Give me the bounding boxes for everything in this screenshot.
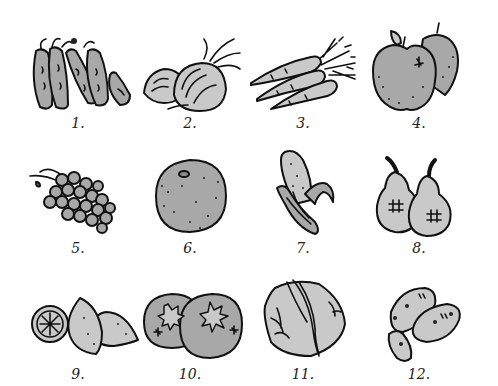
item-onions: 2.	[134, 17, 246, 137]
lemons-illustration	[22, 268, 134, 364]
item-number: 4.	[363, 115, 475, 131]
item-number: 9.	[22, 366, 134, 382]
item-number: 11.	[247, 366, 359, 382]
corn-illustration	[247, 142, 359, 238]
item-number: 6.	[134, 240, 246, 256]
item-orange: 6.	[134, 142, 246, 262]
onions-illustration	[134, 17, 246, 113]
item-number: 10.	[134, 366, 246, 382]
item-number: 12.	[363, 366, 475, 382]
item-carrots: 3.	[247, 17, 359, 137]
oranges-illustration	[134, 268, 246, 364]
grapes-illustration	[22, 142, 134, 238]
potatoes-illustration	[363, 268, 475, 364]
item-lemons: 9.	[22, 268, 134, 386]
carrots-illustration	[247, 17, 359, 113]
item-number: 5.	[22, 240, 134, 256]
pears-illustration	[363, 142, 475, 238]
orange-illustration	[134, 142, 246, 238]
item-pears: 8.	[363, 142, 475, 262]
item-apples: 4.	[363, 17, 475, 137]
item-cabbage: 11.	[247, 268, 359, 386]
item-number: 3.	[247, 115, 359, 131]
cabbage-illustration	[247, 268, 359, 364]
item-number: 2.	[134, 115, 246, 131]
item-potatoes: 12.	[363, 268, 475, 386]
item-peas: 1.	[22, 17, 134, 137]
apples-illustration	[363, 17, 475, 113]
peas-illustration	[22, 17, 134, 113]
item-grapes: 5.	[22, 142, 134, 262]
item-number: 7.	[247, 240, 359, 256]
item-oranges: 10.	[134, 268, 246, 386]
item-number: 8.	[363, 240, 475, 256]
item-number: 1.	[22, 115, 134, 131]
item-corn: 7.	[247, 142, 359, 262]
